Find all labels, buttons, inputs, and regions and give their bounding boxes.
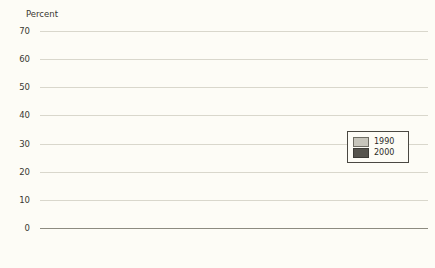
y-axis-title: Percent xyxy=(26,9,58,19)
legend-label-2000: 2000 xyxy=(374,149,394,157)
y-tick-50: 50 xyxy=(0,83,30,92)
y-tick-40: 40 xyxy=(0,111,30,120)
plot-area xyxy=(40,31,428,228)
bar-chart: Percent 010203040506070 1990 2000 xyxy=(0,0,435,268)
legend-item-1990: 1990 xyxy=(353,136,403,147)
gridline-0 xyxy=(40,228,428,229)
legend-label-1990: 1990 xyxy=(374,138,394,146)
legend-swatch-2000 xyxy=(353,148,369,158)
gridline-70 xyxy=(40,31,428,32)
gridline-60 xyxy=(40,59,428,60)
legend-swatch-1990 xyxy=(353,137,369,147)
y-tick-70: 70 xyxy=(0,27,30,36)
gridline-10 xyxy=(40,200,428,201)
gridline-20 xyxy=(40,172,428,173)
y-tick-0: 0 xyxy=(0,224,30,233)
y-tick-30: 30 xyxy=(0,140,30,149)
y-tick-60: 60 xyxy=(0,55,30,64)
gridline-50 xyxy=(40,87,428,88)
y-tick-10: 10 xyxy=(0,196,30,205)
chart-legend: 1990 2000 xyxy=(347,131,409,163)
gridline-40 xyxy=(40,115,428,116)
y-tick-20: 20 xyxy=(0,168,30,177)
legend-item-2000: 2000 xyxy=(353,147,403,158)
y-axis-tick-labels: 010203040506070 xyxy=(0,31,36,228)
